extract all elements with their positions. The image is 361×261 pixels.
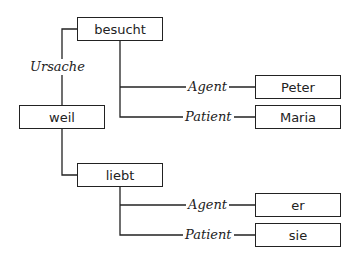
edge-label-agent-1: Agent (186, 79, 229, 95)
node-liebt: liebt (77, 163, 163, 187)
node-maria: Maria (255, 105, 341, 129)
node-er: er (255, 193, 341, 217)
node-weil: weil (19, 105, 105, 129)
node-sie: sie (255, 223, 341, 247)
connector-lines (0, 0, 361, 261)
edge-label-ursache: Ursache (28, 59, 87, 75)
node-peter: Peter (255, 75, 341, 99)
edge-label-patient-2: Patient (183, 227, 234, 243)
node-besucht: besucht (77, 17, 163, 41)
edge-label-agent-2: Agent (186, 197, 229, 213)
edge-label-patient-1: Patient (183, 109, 234, 125)
